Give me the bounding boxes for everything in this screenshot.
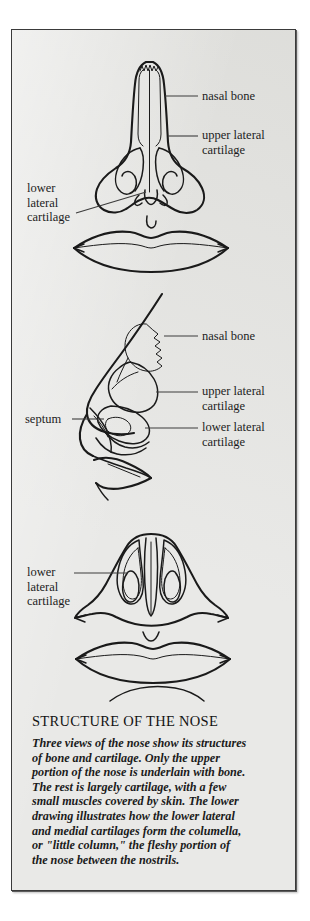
- label-lower-lateral-cartilage: lower lateral cartilage: [27, 181, 70, 225]
- frontal-view: nasal bone upper lateral cartilage lower…: [12, 40, 296, 275]
- label-septum: septum: [25, 412, 61, 427]
- caption-body: Three views of the nose show its structu…: [32, 736, 247, 867]
- profile-view: nasal bone upper lateral cartilage lower…: [12, 288, 296, 513]
- label-lower-lateral-cartilage: lower lateral cartilage: [202, 420, 265, 449]
- label-lower-lateral-cartilage: lower lateral cartilage: [27, 565, 70, 609]
- base-view: lower lateral cartilage: [12, 516, 296, 706]
- label-upper-lateral-cartilage: upper lateral cartilage: [202, 384, 265, 413]
- label-nasal-bone: nasal bone: [202, 329, 255, 344]
- base-view-drawing: [12, 516, 296, 706]
- figure-frame: nasal bone upper lateral cartilage lower…: [11, 29, 296, 891]
- label-nasal-bone: nasal bone: [202, 89, 255, 104]
- caption-title: STRUCTURE OF THE NOSE: [32, 713, 247, 730]
- label-upper-lateral-cartilage: upper lateral cartilage: [202, 128, 265, 157]
- caption-block: STRUCTURE OF THE NOSE Three views of the…: [32, 713, 247, 867]
- frontal-view-drawing: [12, 40, 296, 275]
